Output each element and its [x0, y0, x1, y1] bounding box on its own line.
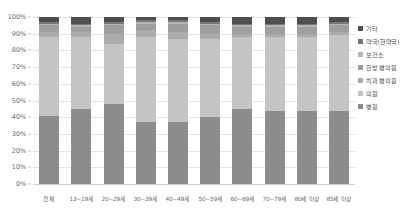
bar-segment[interactable]	[104, 34, 124, 44]
bar-segment[interactable]	[104, 104, 124, 184]
legend-item-label: 치과 병의원	[366, 76, 397, 85]
bar-segment[interactable]	[297, 111, 317, 184]
legend-item-label: 약국(한약국)	[366, 37, 399, 46]
bar-segment[interactable]	[232, 37, 252, 109]
y-tick-mark	[28, 33, 31, 34]
gridline	[33, 184, 355, 185]
stacked-bar[interactable]	[265, 17, 285, 184]
x-axis-tick: 70~79세	[258, 186, 290, 204]
x-axis-tick-label: 20~29세	[101, 194, 125, 203]
legend-item[interactable]: 치과 병의원	[358, 74, 411, 87]
legend-item[interactable]: 기타	[358, 22, 411, 35]
bar-segment[interactable]	[168, 39, 188, 123]
bar-slot	[65, 17, 97, 184]
bar-segment[interactable]	[232, 27, 252, 34]
y-axis-tick-label: 70%	[12, 63, 26, 71]
y-axis-tick-label: 30%	[12, 130, 26, 138]
bar-segment[interactable]	[232, 17, 252, 24]
bar-segment[interactable]	[136, 24, 156, 31]
x-axis-tick-label: 전체	[43, 194, 54, 203]
y-tick-mark	[28, 117, 31, 118]
x-axis-tick-label: 30~39세	[134, 194, 158, 203]
x-axis-tick-label: 13~19세	[69, 194, 93, 203]
bar-segment[interactable]	[104, 25, 124, 33]
x-axis-tick-label: 60~69세	[230, 194, 254, 203]
bar-segment[interactable]	[297, 27, 317, 34]
legend-item-label: 병원	[366, 102, 378, 111]
bar-segment[interactable]	[297, 37, 317, 110]
x-axis-tick-label: 70~79세	[262, 194, 286, 203]
bar-segment[interactable]	[168, 122, 188, 184]
legend-item[interactable]: 의원	[358, 87, 411, 100]
bar-segment[interactable]	[297, 17, 317, 24]
legend-item[interactable]: 한방 병의원	[358, 61, 411, 74]
bar-slot	[258, 17, 290, 184]
y-axis-tick-label: 0%	[16, 180, 26, 188]
x-axis-tick: 20~29세	[97, 186, 129, 204]
stacked-bar[interactable]	[329, 17, 349, 184]
legend-swatch-icon	[358, 52, 363, 57]
bar-segment[interactable]	[265, 37, 285, 110]
y-axis-tick-label: 60%	[12, 80, 26, 88]
bar-segment[interactable]	[329, 25, 349, 32]
stacked-bar[interactable]	[71, 17, 91, 184]
bar-slot	[33, 17, 65, 184]
bar-segment[interactable]	[39, 116, 59, 184]
bar-segment[interactable]	[168, 24, 188, 32]
stacked-bar[interactable]	[136, 17, 156, 184]
bar-segment[interactable]	[136, 37, 156, 122]
stacked-bar[interactable]	[104, 17, 124, 184]
legend-item[interactable]: 병원	[358, 100, 411, 113]
y-tick-mark	[28, 133, 31, 134]
x-axis-tick: 13~19세	[65, 186, 97, 204]
bar-segment[interactable]	[265, 111, 285, 184]
bar-segment[interactable]	[200, 39, 220, 117]
y-axis-tick-label: 90%	[12, 30, 26, 38]
bar-segment[interactable]	[200, 117, 220, 184]
bar-segment[interactable]	[232, 109, 252, 184]
stacked-bar[interactable]	[39, 17, 59, 184]
bar-segment[interactable]	[136, 30, 156, 37]
bar-segment[interactable]	[71, 17, 91, 24]
plot-area	[33, 17, 355, 184]
bar-segment[interactable]	[39, 37, 59, 115]
stacked-bar[interactable]	[168, 17, 188, 184]
bar-segment[interactable]	[39, 25, 59, 32]
x-axis-tick: 30~39세	[130, 186, 162, 204]
bar-slot	[226, 17, 258, 184]
y-axis-tick-label: 10%	[12, 163, 26, 171]
legend-item[interactable]: 약국(한약국)	[358, 35, 411, 48]
bar-segment[interactable]	[329, 111, 349, 184]
legend-swatch-icon	[358, 78, 363, 83]
x-axis-tick-label: 40~49세	[166, 194, 190, 203]
bar-segment[interactable]	[200, 25, 220, 33]
bar-segment[interactable]	[71, 109, 91, 184]
y-axis-tick-label: 50%	[12, 97, 26, 105]
bar-slot	[97, 17, 129, 184]
legend-item-label: 기타	[366, 24, 378, 33]
y-axis-tick-label: 100%	[8, 13, 26, 21]
stacked-bar[interactable]	[297, 17, 317, 184]
bar-segment[interactable]	[265, 17, 285, 24]
bar-segment[interactable]	[265, 27, 285, 34]
bar-segment[interactable]	[104, 44, 124, 104]
bar-segment[interactable]	[136, 122, 156, 184]
legend-swatch-icon	[358, 26, 363, 31]
y-tick-mark	[28, 167, 31, 168]
x-axis-tick: 전체	[33, 186, 65, 204]
y-tick-mark	[28, 83, 31, 84]
legend-swatch-icon	[358, 91, 363, 96]
x-axis-tick: 80세 이상	[291, 186, 323, 204]
legend-item[interactable]: 보건소	[358, 48, 411, 61]
x-axis-tick: 85세 이상	[323, 186, 355, 204]
stacked-bar[interactable]	[232, 17, 252, 184]
bar-segment[interactable]	[329, 35, 349, 110]
bar-segment[interactable]	[71, 37, 91, 109]
y-axis-tick-label: 80%	[12, 46, 26, 54]
bar-slot	[323, 17, 355, 184]
bar-segment[interactable]	[168, 32, 188, 39]
stacked-bar[interactable]	[200, 17, 220, 184]
legend-item-label: 보건소	[366, 50, 383, 59]
bar-slot	[130, 17, 162, 184]
y-tick-mark	[28, 100, 31, 101]
